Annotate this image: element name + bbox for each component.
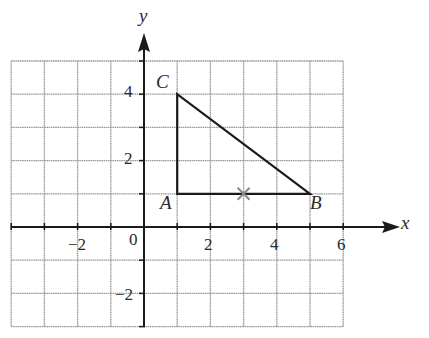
vertex-label-b: B xyxy=(310,192,322,213)
vertex-label-a: A xyxy=(158,192,172,213)
axes xyxy=(11,33,400,327)
y-axis-label: y xyxy=(137,5,148,26)
x-tick-label-neg2: −2 xyxy=(68,235,86,254)
y-tick-label-4: 4 xyxy=(124,82,133,101)
x-axis-label: x xyxy=(400,212,410,233)
x-tick-label-2: 2 xyxy=(204,235,213,254)
x-tick-label-4: 4 xyxy=(270,235,279,254)
x-tick-label-6: 6 xyxy=(337,235,346,254)
vertex-label-c: C xyxy=(156,71,169,92)
y-tick-label-2: 2 xyxy=(124,149,133,168)
origin-label: 0 xyxy=(129,230,138,249)
coordinate-grid-diagram: y x 0 −2 2 4 6 4 2 −2 C A B xyxy=(0,0,429,338)
y-tick-label-neg2: −2 xyxy=(115,285,133,304)
